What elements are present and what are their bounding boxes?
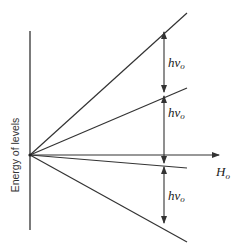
energy-level-diagram: Energy of levels Ho hνo hνo hνo [0, 0, 241, 250]
spacing-label-2: hνo [168, 105, 185, 121]
field-axis-label: Ho [215, 164, 230, 181]
origin-point [28, 153, 31, 156]
spacing-label-1: hνo [168, 55, 185, 71]
energy-axis-label: Energy of levels [9, 118, 21, 193]
spacing-label-3: hνo [168, 188, 185, 204]
